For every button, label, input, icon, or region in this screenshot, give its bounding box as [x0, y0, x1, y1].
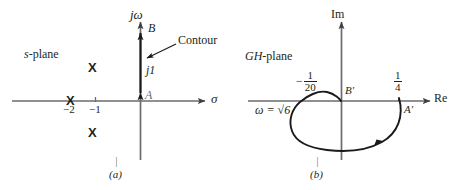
panel-a-axes: [12, 22, 205, 160]
crossing-point-label: − 1 20: [296, 70, 317, 93]
tick-label-minus-one: −1: [89, 104, 101, 115]
figure-container: s-plane jω B A Contour j1 −2 −1 X X X σ …: [0, 0, 469, 190]
contour-leader-arrow: [147, 44, 176, 58]
intercept-numerator: 1: [394, 70, 402, 81]
s-plane-label: s-plane: [24, 48, 59, 60]
gh-plane-label-rest: -plane: [262, 49, 292, 63]
intercept-denominator: 4: [394, 81, 402, 93]
re-axis-label: Re: [434, 92, 447, 104]
pole-marker-complex-lower: X: [88, 126, 97, 139]
crossing-denominator: 20: [304, 81, 317, 93]
sigma-axis-label: σ: [211, 92, 217, 105]
pole-marker-real: X: [66, 94, 75, 107]
s-plane-label-rest: -plane: [29, 47, 59, 61]
jomega-axis-label: jω: [130, 8, 143, 21]
intercept-point-label: 1 4: [394, 70, 402, 93]
point-b-prime-label: B': [345, 85, 354, 96]
j1-label: j1: [146, 64, 155, 76]
pole-marker-complex-upper: X: [88, 61, 97, 74]
gh-plane-label: GH-plane: [245, 50, 292, 62]
crossing-numerator: 1: [304, 70, 317, 81]
panel-b-axes: [248, 22, 430, 160]
point-a-prime-label: A': [404, 104, 413, 115]
caption-a: (a): [109, 168, 122, 180]
point-a-label: A: [145, 89, 152, 101]
contour-label: Contour: [178, 34, 217, 46]
omega-value-label: ω = √6: [255, 104, 290, 116]
im-axis-label: Im: [331, 8, 344, 20]
point-b-label: B: [148, 22, 155, 34]
crossing-sign: −: [296, 74, 303, 89]
caption-b: (b): [310, 168, 323, 180]
gh-plane-label-italic: GH: [245, 49, 262, 63]
